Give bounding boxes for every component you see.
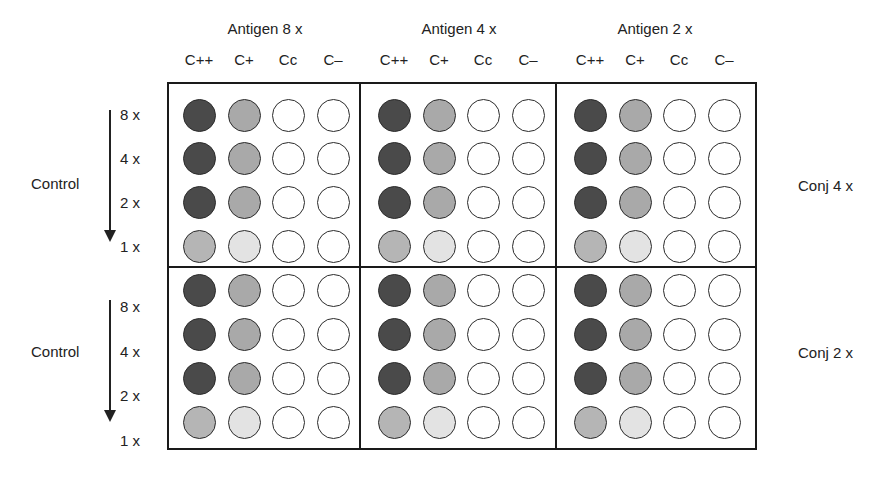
conjugate-label: Conj 4 x: [798, 177, 853, 194]
well-medium: [228, 142, 261, 175]
well-medium: [423, 362, 456, 395]
well-empty: [317, 318, 350, 351]
well-empty: [512, 406, 545, 439]
well-dark: [574, 186, 607, 219]
conjugate-label: Conj 2 x: [798, 344, 853, 361]
well-empty: [317, 274, 350, 307]
dilution-arrow-line: [109, 300, 111, 412]
well-empty: [708, 274, 741, 307]
well-empty: [317, 142, 350, 175]
column-label: Cc: [461, 51, 505, 68]
conjugate-divider: [167, 266, 757, 268]
well-medium: [423, 274, 456, 307]
column-label: C++: [177, 51, 221, 68]
well-empty: [512, 274, 545, 307]
well-empty: [467, 99, 500, 132]
well-medium: [228, 362, 261, 395]
row-label: 8 x: [120, 298, 150, 315]
well-empty: [512, 318, 545, 351]
control-label: Control: [31, 175, 79, 192]
well-medium: [228, 318, 261, 351]
well-medium: [228, 186, 261, 219]
well-dark: [183, 274, 216, 307]
well-empty: [272, 318, 305, 351]
well-medium: [228, 99, 261, 132]
control-label: Control: [31, 343, 79, 360]
well-dark: [574, 274, 607, 307]
column-label: Cc: [266, 51, 310, 68]
well-light: [183, 230, 216, 263]
column-label: C+: [417, 51, 461, 68]
well-empty: [317, 406, 350, 439]
row-label: 1 x: [120, 432, 150, 449]
well-empty: [708, 230, 741, 263]
well-empty: [512, 142, 545, 175]
well-empty: [663, 186, 696, 219]
well-empty: [467, 318, 500, 351]
well-empty: [467, 186, 500, 219]
well-empty: [663, 406, 696, 439]
well-dark: [183, 318, 216, 351]
well-dark: [378, 142, 411, 175]
column-label: C++: [568, 51, 612, 68]
well-empty: [512, 186, 545, 219]
well-empty: [467, 406, 500, 439]
well-dark: [183, 99, 216, 132]
well-pale: [619, 406, 652, 439]
well-empty: [467, 142, 500, 175]
well-medium: [423, 186, 456, 219]
dilution-arrow-line: [109, 110, 111, 232]
antigen-group-title: Antigen 8 x: [167, 20, 363, 37]
well-pale: [228, 230, 261, 263]
well-dark: [183, 362, 216, 395]
well-dark: [183, 142, 216, 175]
column-label: Cc: [657, 51, 701, 68]
well-medium: [619, 99, 652, 132]
well-medium: [423, 318, 456, 351]
well-empty: [272, 406, 305, 439]
well-pale: [228, 406, 261, 439]
dilution-arrow-icon: [104, 410, 116, 422]
well-dark: [378, 99, 411, 132]
well-medium: [619, 142, 652, 175]
well-dark: [574, 362, 607, 395]
well-empty: [708, 362, 741, 395]
column-label: C++: [372, 51, 416, 68]
well-pale: [423, 406, 456, 439]
well-medium: [619, 186, 652, 219]
well-empty: [467, 274, 500, 307]
well-empty: [708, 318, 741, 351]
well-empty: [467, 230, 500, 263]
well-empty: [317, 230, 350, 263]
well-medium: [619, 318, 652, 351]
well-medium: [619, 274, 652, 307]
column-label: C–: [506, 51, 550, 68]
antigen-group-title: Antigen 2 x: [557, 20, 753, 37]
well-empty: [663, 230, 696, 263]
well-medium: [619, 362, 652, 395]
well-light: [574, 230, 607, 263]
column-label: C–: [311, 51, 355, 68]
column-label: C–: [702, 51, 746, 68]
well-light: [183, 406, 216, 439]
row-label: 4 x: [120, 150, 150, 167]
well-medium: [423, 99, 456, 132]
row-label: 1 x: [120, 238, 150, 255]
well-light: [378, 406, 411, 439]
well-pale: [619, 230, 652, 263]
row-label: 4 x: [120, 343, 150, 360]
well-empty: [272, 362, 305, 395]
well-dark: [574, 99, 607, 132]
well-empty: [708, 406, 741, 439]
well-dark: [183, 186, 216, 219]
well-empty: [708, 186, 741, 219]
well-pale: [423, 230, 456, 263]
well-empty: [317, 99, 350, 132]
well-empty: [708, 99, 741, 132]
well-dark: [574, 142, 607, 175]
well-empty: [663, 362, 696, 395]
well-empty: [467, 362, 500, 395]
well-empty: [512, 362, 545, 395]
column-label: C+: [222, 51, 266, 68]
well-empty: [512, 230, 545, 263]
